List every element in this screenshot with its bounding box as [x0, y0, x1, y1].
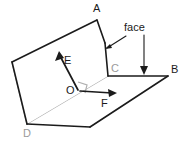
vector-f-arrowhead: [108, 89, 117, 97]
label-f: F: [101, 97, 108, 109]
face-drop-arrow-group: [140, 35, 148, 75]
label-b: B: [171, 63, 178, 75]
edge-d-to-base-bottom-right: [27, 124, 90, 127]
tilted-panel-group: [12, 20, 108, 124]
face-drop-arrowhead: [140, 66, 148, 75]
diagram-svg: E F O face A B C D: [0, 0, 189, 145]
label-o: O: [66, 84, 75, 96]
label-d: D: [23, 127, 31, 139]
label-c: C: [111, 62, 119, 74]
geometry-diagram-canvas: E F O face A B C D: [0, 0, 189, 145]
tilted-panel-fill: [12, 20, 108, 124]
label-face: face: [124, 21, 145, 33]
label-e: E: [64, 54, 71, 66]
label-a: A: [93, 2, 101, 14]
vector-f-group: F: [80, 89, 117, 109]
face-callout-group: face: [105, 21, 145, 49]
